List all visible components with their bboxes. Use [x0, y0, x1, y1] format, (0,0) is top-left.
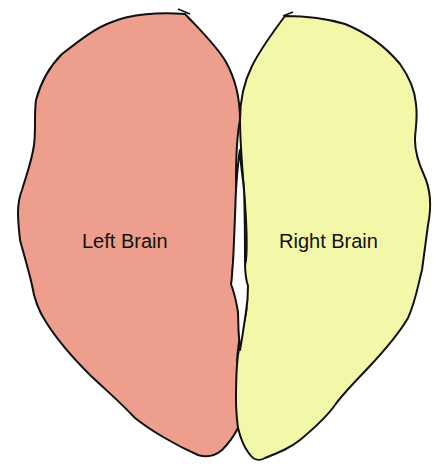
left-brain-label: Left Brain [82, 230, 168, 253]
brain-diagram: Left Brain Right Brain [0, 0, 440, 468]
right-brain-label: Right Brain [279, 230, 378, 253]
